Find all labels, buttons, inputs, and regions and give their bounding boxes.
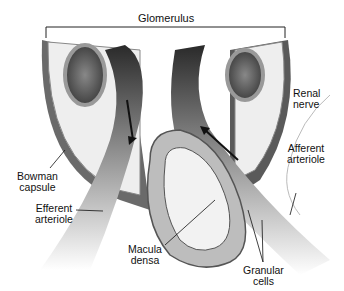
label-bowman-capsule: Bowman capsule [17, 171, 58, 193]
label-glomerulus: Glomerulus [138, 13, 194, 24]
label-efferent-arteriole: Efferent arteriole [35, 203, 73, 225]
label-afferent-arteriole: Afferent arteriole [287, 143, 325, 165]
label-granular-cells: Granular cells [243, 265, 284, 287]
glomerulus-bracket [46, 27, 285, 38]
label-renal-nerve: Renal nerve [293, 88, 320, 110]
label-macula-densa: Macula densa [128, 244, 162, 266]
